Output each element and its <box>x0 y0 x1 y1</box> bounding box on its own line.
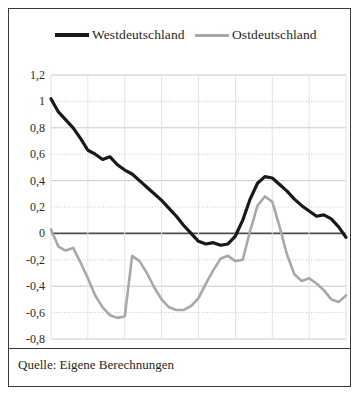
y-tick-label: -0,4 <box>26 279 45 293</box>
chart-legend: Westdeutschland Ostdeutschland <box>9 27 350 53</box>
x-tick-label: 2050 <box>334 344 352 345</box>
y-tick-label: -0,6 <box>26 306 45 320</box>
y-tick-label: 0,8 <box>30 121 45 135</box>
y-tick-label: 0 <box>39 226 45 240</box>
chart-figure: Westdeutschland Ostdeutschland 1,210,80,… <box>8 8 351 387</box>
y-tick-label: 0,2 <box>30 200 45 214</box>
x-tick-label: 2030 <box>187 344 211 345</box>
legend-line-swatch-ostdeutschland <box>195 34 229 37</box>
legend-item-ostdeutschland: Ostdeutschland <box>195 27 317 43</box>
legend-item-westdeutschland: Westdeutschland <box>55 27 185 43</box>
y-tick-label: 1,2 <box>30 68 45 82</box>
plot-area: 1,210,80,60,40,20-0,2-0,4-0,6-0,8 201020… <box>9 53 352 345</box>
x-tick-label: 2035 <box>223 344 247 345</box>
x-tick-label: 2045 <box>297 344 321 345</box>
legend-line-swatch-westdeutschland <box>55 33 89 37</box>
y-tick-label: -0,2 <box>26 253 45 267</box>
x-axis-tick-labels: 201020152020202520302035204020452050 <box>39 344 352 345</box>
legend-label-ostdeutschland: Ostdeutschland <box>232 27 317 43</box>
x-tick-label: 2015 <box>76 344 100 345</box>
source-note: Quelle: Eigene Berechnungen <box>18 357 174 373</box>
legend-label-westdeutschland: Westdeutschland <box>92 27 185 43</box>
y-axis-tick-labels: 1,210,80,60,40,20-0,2-0,4-0,6-0,8 <box>26 68 45 345</box>
y-tick-label: 0,6 <box>30 147 45 161</box>
source-separator <box>9 348 350 349</box>
x-tick-label: 2010 <box>39 344 63 345</box>
x-tick-label: 2020 <box>113 344 137 345</box>
y-tick-label: 1 <box>39 94 45 108</box>
y-tick-label: 0,4 <box>30 174 45 188</box>
x-tick-label: 2040 <box>260 344 284 345</box>
line-chart-svg: 1,210,80,60,40,20-0,2-0,4-0,6-0,8 201020… <box>9 53 352 345</box>
x-tick-label: 2025 <box>150 344 174 345</box>
